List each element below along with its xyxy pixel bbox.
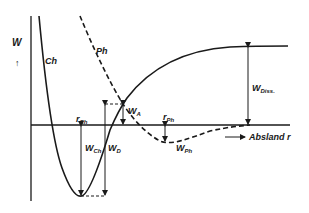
physisorption-label: Ph [96, 46, 108, 56]
x-axis-label: Absland r [248, 132, 291, 142]
y-axis-up-arrow: ↑ [15, 58, 20, 68]
w-a-label: WA [128, 106, 141, 117]
potential-energy-diagram: W ↑ Ch Ph rCh rPh WCh WD WA WPh WDiss. A… [0, 0, 309, 213]
r-ph-label: rPh [163, 112, 175, 123]
chemisorption-label: Ch [45, 56, 57, 66]
w-diss-label: WDiss. [252, 83, 275, 94]
w-ph-label: WPh [176, 143, 193, 154]
y-axis-label: W [12, 37, 23, 48]
w-ch-label: WCh [85, 143, 102, 154]
chemisorption-curve [39, 16, 288, 196]
r-ch-label: rCh [76, 114, 88, 125]
w-d-label: WD [108, 143, 122, 154]
